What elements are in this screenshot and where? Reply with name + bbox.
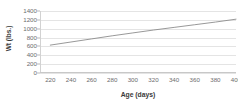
x-axis-tick-label: 240: [66, 77, 76, 83]
x-axis-tick-label: 300: [128, 77, 138, 83]
line-chart-figure: Wt (lbs.) 0200400600800100012001400 2202…: [0, 0, 238, 109]
x-axis-tick-label: 380: [210, 77, 220, 83]
x-axis-tick-label: 220: [45, 77, 55, 83]
y-axis-tick-label: 1000: [23, 26, 37, 32]
y-axis-tick-label: 1400: [23, 8, 37, 14]
series-line: [50, 19, 236, 45]
x-axis-tick-label: 260: [86, 77, 96, 83]
y-axis-tick-labels: 0200400600800100012001400: [16, 11, 38, 73]
gridline: [40, 73, 236, 74]
plot-area: [40, 11, 236, 73]
x-axis-tick-labels: 220240260280300320340360380400: [40, 77, 236, 87]
x-axis-tick-label: 340: [169, 77, 179, 83]
x-axis-tick-label: 400: [231, 77, 238, 83]
y-axis-tick-label: 1200: [23, 17, 37, 23]
x-axis-tick-label: 280: [107, 77, 117, 83]
y-axis-title-label: Wt (lbs.): [6, 25, 13, 51]
x-axis-tick-label: 320: [148, 77, 158, 83]
x-axis-title: Age (days): [40, 92, 236, 99]
series-line-weight: [40, 11, 236, 73]
x-axis-tick-label: 360: [190, 77, 200, 83]
